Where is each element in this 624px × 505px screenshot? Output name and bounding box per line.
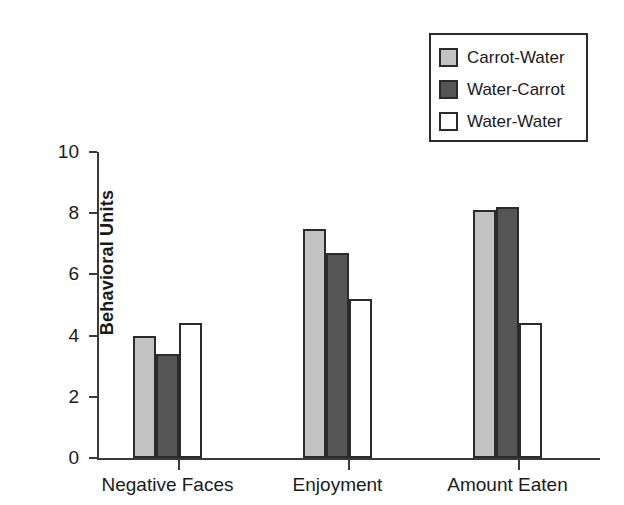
x-tick-label: Negative Faces: [101, 474, 233, 496]
legend-item-carrot-water: Carrot-Water: [439, 41, 586, 73]
legend-label-water-carrot: Water-Carrot: [467, 80, 565, 99]
x-tick-label: Enjoyment: [293, 474, 383, 496]
legend-item-water-water: Water-Water: [439, 105, 586, 137]
legend-item-water-carrot: Water-Carrot: [439, 73, 586, 105]
y-tick-label: 4: [39, 326, 79, 345]
y-tick-mark: [89, 457, 97, 459]
bar: [519, 323, 542, 458]
y-tick-label: 6: [39, 264, 79, 283]
y-axis-title: Behavioral Units: [97, 190, 118, 335]
y-tick-mark: [89, 396, 97, 398]
legend-swatch-carrot-water: [439, 48, 458, 67]
bar-chart-figure: Carrot-Water Water-Carrot Water-Water Be…: [0, 0, 624, 505]
x-tick-label: Amount Eaten: [447, 474, 567, 496]
y-tick-mark: [89, 212, 97, 214]
bar: [496, 207, 519, 458]
bar: [156, 354, 179, 458]
y-tick-mark: [89, 151, 97, 153]
legend-label-water-water: Water-Water: [467, 112, 562, 131]
y-tick-mark: [89, 335, 97, 337]
plot-area: Behavioral Units 0246810 Negative FacesE…: [97, 152, 600, 458]
y-tick-label: 10: [39, 142, 79, 161]
y-tick-mark: [89, 273, 97, 275]
y-tick-label: 8: [39, 203, 79, 222]
y-tick-label: 0: [39, 448, 79, 467]
x-tick-mark: [348, 459, 350, 470]
bar: [473, 210, 496, 458]
bar: [303, 229, 326, 459]
legend-swatch-water-carrot: [439, 80, 458, 99]
chart-legend: Carrot-Water Water-Carrot Water-Water: [429, 33, 588, 142]
legend-label-carrot-water: Carrot-Water: [467, 48, 565, 67]
x-tick-mark: [178, 459, 180, 470]
bar: [349, 299, 372, 458]
bar: [133, 336, 156, 458]
y-tick-label: 2: [39, 387, 79, 406]
bar: [179, 323, 202, 458]
bar: [326, 253, 349, 458]
x-tick-mark: [518, 459, 520, 470]
legend-swatch-water-water: [439, 112, 458, 131]
